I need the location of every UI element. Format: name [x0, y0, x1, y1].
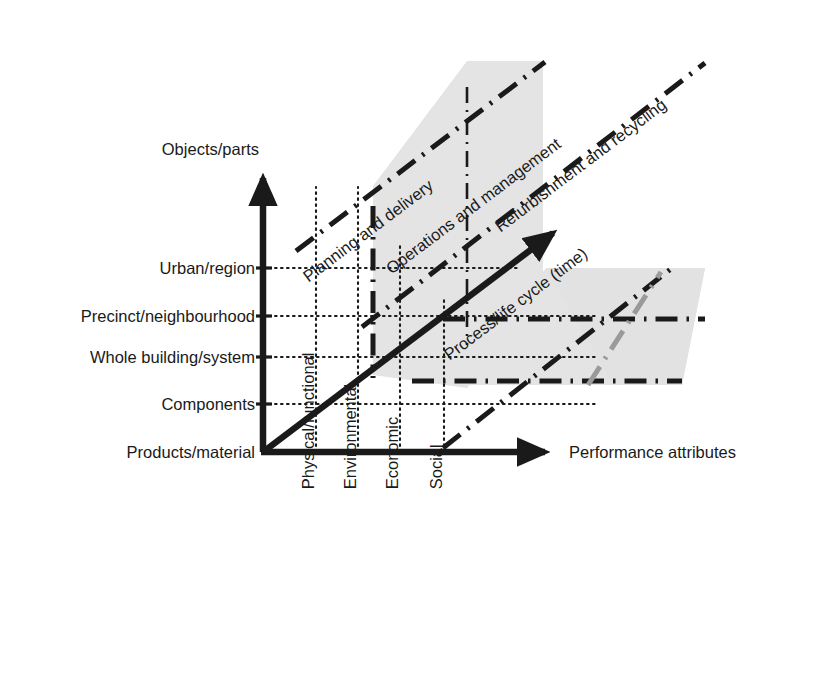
y-tick-label-components: Components: [161, 396, 255, 413]
x-axis-cap-label: Performance attributes: [569, 444, 736, 461]
framework-diagram: Objects/parts Urban/region Precinct/neig…: [0, 0, 821, 674]
x-tick-label-environmental: Environmental: [342, 384, 359, 489]
y-tick-label-building: Whole building/system: [90, 349, 255, 366]
x-tick-label-physical: Physical/functional: [300, 353, 317, 490]
y-tick-label-precinct: Precinct/neighbourhood: [81, 308, 255, 325]
diagram-canvas: [0, 0, 821, 674]
x-tick-label-economic: Economic: [384, 417, 401, 489]
y-tick-label-products: Products/material: [127, 444, 255, 461]
x-tick-label-social: Social: [428, 444, 445, 489]
y-tick-label-urban: Urban/region: [160, 260, 255, 277]
y-axis-cap-label: Objects/parts: [162, 141, 259, 158]
